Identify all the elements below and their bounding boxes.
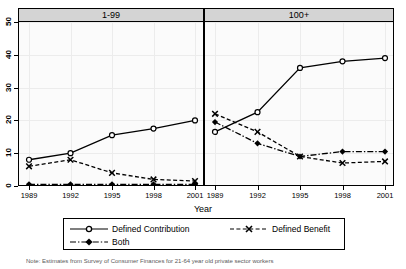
y-tick-label: 10: [4, 145, 13, 161]
legend-label-defined-contribution: Defined Contribution: [112, 224, 190, 234]
x-tick-label: 1998: [334, 191, 351, 200]
series-line: [29, 120, 195, 159]
legend-label-defined-benefit: Defined Benefit: [272, 224, 330, 234]
data-point-marker: [339, 148, 345, 154]
x-axis-title: Year: [0, 204, 406, 214]
series-line: [29, 160, 195, 181]
x-tick-label: 1992: [249, 191, 266, 200]
series-lines-1-99: [19, 22, 203, 186]
legend-row-1: Defined Contribution Defined Benefit: [70, 222, 338, 235]
y-tick-label: 20: [4, 112, 13, 128]
x-tick-label: 1989: [207, 191, 224, 200]
data-point-marker: [151, 126, 156, 131]
x-tick-mark: [29, 186, 30, 190]
data-point-marker: [193, 118, 198, 123]
data-point-marker: [382, 148, 388, 154]
legend-label-both: Both: [112, 237, 130, 247]
data-point-marker: [254, 140, 260, 146]
x-tick-mark: [154, 186, 155, 190]
data-point-marker: [382, 159, 388, 165]
x-tick-mark: [258, 186, 259, 190]
legend-row-2: Both: [70, 235, 338, 248]
x-tick-label: 1995: [292, 191, 309, 200]
panel-100-plus: 100+: [204, 8, 394, 186]
y-tick-label: 0: [4, 178, 13, 194]
x-tick-mark: [215, 186, 216, 190]
y-tick-mark: [14, 186, 18, 187]
chart-figure: 01020304050 1-99 100+ 198919921995199820…: [0, 0, 406, 269]
data-point-marker: [110, 133, 115, 138]
data-point-marker: [212, 111, 218, 117]
x-tick-mark: [112, 186, 113, 190]
data-point-marker: [27, 157, 32, 162]
legend-symbol-defined-contribution: [70, 223, 108, 235]
data-point-marker: [383, 56, 388, 61]
x-tick-label: 1998: [145, 191, 162, 200]
data-point-marker: [68, 151, 73, 156]
plot-area-1-99: [18, 22, 204, 186]
x-tick-label: 1989: [21, 191, 38, 200]
panel-title-100-plus: 100+: [204, 8, 394, 22]
x-tick-mark: [300, 186, 301, 190]
data-point-marker: [255, 129, 261, 135]
legend-item-defined-contribution: Defined Contribution: [70, 223, 230, 235]
x-tick-mark: [71, 186, 72, 190]
data-point-marker: [212, 119, 218, 125]
plot-area-100-plus: [204, 22, 394, 186]
data-point-marker: [255, 110, 260, 115]
legend-item-defined-benefit: Defined Benefit: [230, 223, 330, 235]
series-line: [215, 122, 385, 156]
y-tick-label: 30: [4, 79, 13, 95]
chart-legend: Defined Contribution Defined Benefit Bot…: [63, 218, 345, 250]
x-tick-label: 1992: [62, 191, 79, 200]
legend-item-both: Both: [70, 236, 230, 248]
x-tick-mark: [195, 186, 196, 190]
data-point-marker: [213, 129, 218, 134]
legend-symbol-defined-benefit: [230, 223, 268, 235]
x-tick-label: 2001: [187, 191, 204, 200]
x-tick-mark: [343, 186, 344, 190]
data-point-marker: [340, 59, 345, 64]
series-lines-100-plus: [205, 22, 393, 186]
panel-title-1-99: 1-99: [18, 8, 204, 22]
x-tick-label: 2001: [377, 191, 394, 200]
x-tick-label: 1995: [104, 191, 121, 200]
chart-footnote: Note: Estimates from Survey of Consumer …: [26, 258, 402, 264]
y-tick-label: 50: [4, 14, 13, 30]
panel-1-99: 1-99: [18, 8, 204, 186]
legend-symbol-both: [70, 236, 108, 248]
y-tick-label: 40: [4, 46, 13, 62]
data-point-marker: [298, 65, 303, 70]
x-tick-mark: [385, 186, 386, 190]
